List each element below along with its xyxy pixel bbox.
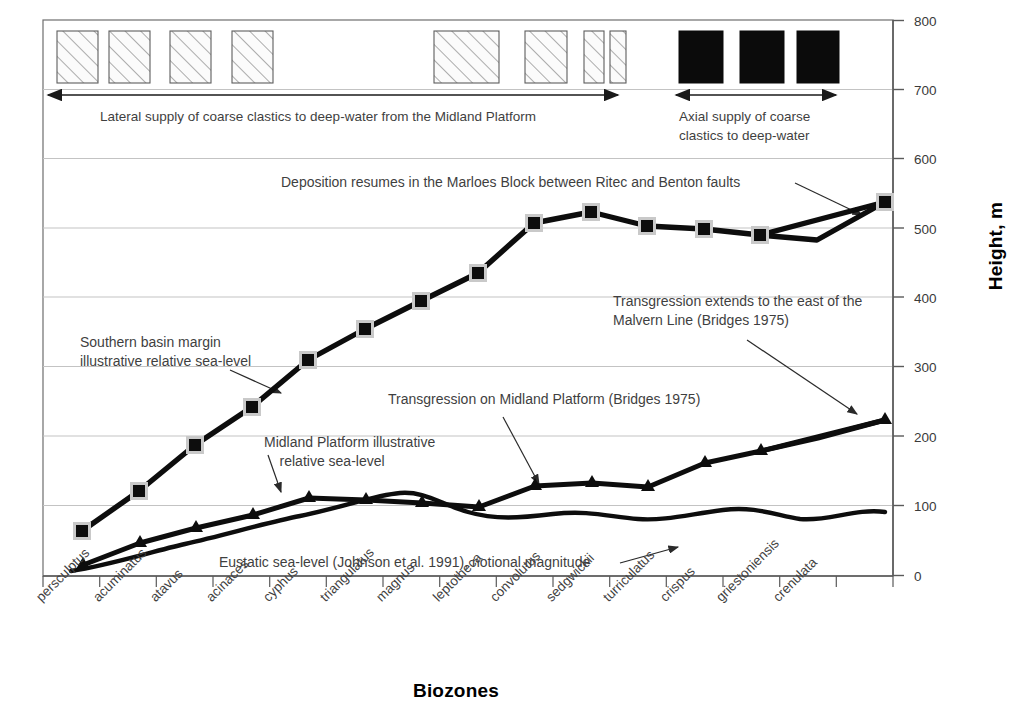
y-tick-label: 300 (914, 360, 937, 375)
y-axis-title: Height, m (985, 202, 1007, 290)
marker-square (243, 398, 261, 416)
marker-square (695, 220, 713, 238)
marker-square (186, 436, 204, 454)
y-tick-label: 700 (914, 83, 937, 98)
y-tick-label: 800 (914, 14, 937, 29)
axial-supply-label: Axial supply of coarse clastics to deep-… (679, 107, 810, 145)
facies-box-hatched (109, 31, 150, 83)
marker-square (412, 292, 430, 310)
facies-box-solid (797, 31, 839, 83)
y-tick-labels: 800 700 600 500 400 300 200 100 0 (914, 14, 937, 584)
y-tick-label: 200 (914, 430, 937, 445)
y-axis (893, 20, 904, 576)
chart-figure: 800 700 600 500 400 300 200 100 0 Latera… (0, 0, 1012, 719)
facies-box-solid (740, 31, 784, 83)
y-tick-label: 0 (914, 569, 922, 584)
facies-box-hatched (610, 31, 626, 83)
marker-square (469, 264, 487, 282)
annotation-deposition-resumes: Deposition resumes in the Marloes Block … (281, 173, 740, 192)
facies-box-solid-group (679, 31, 839, 83)
marker-square (751, 226, 769, 244)
facies-box-hatched (525, 31, 567, 83)
annotation-midland-platform: Midland Platform illustrative relative s… (264, 433, 435, 471)
lateral-supply-label: Lateral supply of coarse clastics to dee… (100, 107, 536, 126)
facies-box-hatched (434, 31, 499, 83)
facies-box-hatched (584, 31, 604, 83)
annotation-transgression-midland: Transgression on Midland Platform (Bridg… (388, 390, 700, 409)
y-tick-label: 600 (914, 152, 937, 167)
y-tick-label: 100 (914, 499, 937, 514)
y-tick-label: 400 (914, 291, 937, 306)
marker-square (299, 351, 317, 369)
annotation-transgression-east: Transgression extends to the east of the… (613, 292, 862, 330)
marker-square (356, 320, 374, 338)
marker-square (525, 214, 543, 232)
facies-box-hatched (57, 31, 98, 83)
x-axis-title: Biozones (0, 680, 912, 702)
marker-square (582, 203, 600, 221)
annotation-southern-basin-margin: Southern basin margin illustrative relat… (80, 333, 251, 371)
facies-box-hatched (232, 31, 273, 83)
y-tick-label: 500 (914, 222, 937, 237)
facies-box-hatched (170, 31, 211, 83)
facies-box-solid (679, 31, 723, 83)
marker-square (876, 193, 894, 211)
marker-square (130, 482, 148, 500)
marker-square (73, 522, 91, 540)
marker-square (638, 217, 656, 235)
